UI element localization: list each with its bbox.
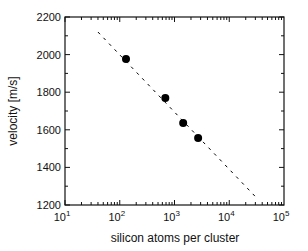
data-point: [122, 55, 130, 63]
x-axis-tick-labels: 101102103104105: [54, 209, 290, 223]
chart: 101102103104105 120014001600180020002200…: [0, 0, 308, 251]
plot-frame: [65, 17, 284, 205]
y-tick-label: 1400: [37, 161, 61, 173]
x-tick-label: 104: [218, 209, 235, 223]
data-point: [179, 119, 187, 127]
data-series: [98, 32, 258, 199]
data-point: [194, 134, 202, 142]
x-tick-label: 103: [163, 209, 180, 223]
y-axis-tick-labels: 120014001600180020002200: [37, 11, 61, 211]
y-tick-label: 1800: [37, 86, 61, 98]
x-axis-ticks: [65, 17, 281, 205]
x-tick-label: 102: [108, 209, 125, 223]
y-tick-label: 2000: [37, 49, 61, 61]
plot-border: [65, 17, 284, 205]
y-tick-label: 1600: [37, 124, 61, 136]
data-point: [161, 94, 169, 102]
y-tick-label: 2200: [37, 11, 61, 23]
fit-line: [98, 32, 258, 199]
y-axis-label: velocity [m/s]: [6, 76, 20, 145]
y-axis-ticks: [65, 17, 284, 205]
y-tick-label: 1200: [37, 199, 61, 211]
x-tick-label: 101: [54, 209, 71, 223]
x-tick-label: 105: [273, 209, 290, 223]
x-axis-label: silicon atoms per cluster: [111, 231, 240, 245]
